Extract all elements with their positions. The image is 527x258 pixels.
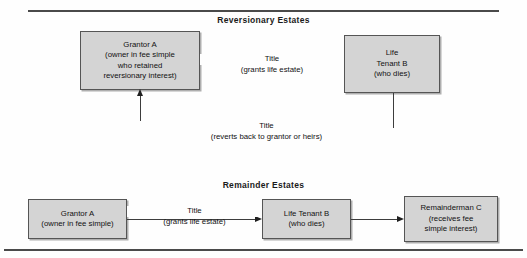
edge-line-to-remainderman [351, 219, 397, 220]
node-line: reversionary interest) [103, 71, 176, 82]
arrowhead-to-grantor-a-top [137, 89, 143, 96]
diagram-page: Reversionary Estates Grantor A (owner in… [0, 0, 527, 258]
node-line: (who dies) [374, 69, 410, 80]
node-line: (owner in fee simple) [41, 219, 113, 230]
node-line: Remainderman C [420, 203, 481, 214]
bottom-horizontal-rule [4, 249, 523, 251]
edge-label-secondary: (reverts back to grantor or heirs) [140, 132, 393, 143]
edge-label-grants-life-estate-bottom: Title (grants life estate) [127, 206, 262, 227]
section-title-reversionary: Reversionary Estates [0, 15, 527, 25]
node-line: simple interest) [425, 224, 478, 235]
edge-label-primary: Title [140, 121, 393, 132]
node-grantor-a-remainder: Grantor A (owner in fee simple) [28, 199, 127, 239]
edge-label-reverts-to-grantor: Title (reverts back to grantor or heirs) [140, 121, 393, 142]
node-line: (receives fee [429, 214, 474, 225]
section-title-remainder: Remainder Estates [0, 180, 527, 190]
edge-label-secondary: (grants life estate) [127, 217, 262, 228]
node-life-tenant-b-reversionary: Life Tenant B (who dies) [344, 35, 440, 93]
arrowhead-to-remainderman-c [397, 216, 404, 222]
node-line: who retained [118, 61, 163, 72]
top-horizontal-rule [28, 10, 499, 12]
edge-label-primary: Title [127, 206, 262, 217]
node-remainderman-c: Remainderman C (receives fee simple inte… [404, 196, 498, 242]
node-line: (who dies) [289, 219, 325, 230]
node-line: Life [386, 48, 399, 59]
edge-label-primary: Title [200, 54, 344, 65]
edge-label-grants-life-estate-top: Title (grants life estate) [200, 54, 344, 75]
edge-line-reverts-vertical-right [393, 93, 394, 128]
edge-label-secondary: (grants life estate) [200, 65, 344, 76]
node-line: (owner in fee simple [105, 50, 175, 61]
node-life-tenant-b-remainder: Life Tenant B (who dies) [262, 199, 351, 239]
node-grantor-a-reversionary: Grantor A (owner in fee simple who retai… [80, 31, 200, 90]
node-line: Life Tenant B [284, 209, 329, 220]
node-line: Tenant B [377, 59, 408, 70]
node-line: Grantor A [123, 40, 156, 51]
node-line: Grantor A [61, 209, 94, 220]
